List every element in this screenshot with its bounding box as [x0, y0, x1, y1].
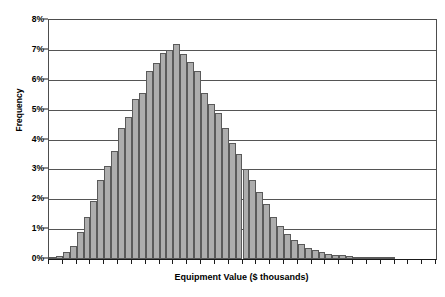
histogram-bar	[104, 166, 111, 259]
x-axis-tick	[269, 259, 270, 264]
histogram-bar	[84, 217, 91, 259]
histogram-bar	[312, 250, 319, 259]
y-axis-tick-label: 7%	[18, 45, 44, 54]
x-axis-tick	[228, 259, 229, 264]
x-axis-tick	[352, 259, 353, 264]
y-axis-tick-label: 4%	[18, 134, 44, 143]
histogram-bar	[277, 226, 284, 259]
x-axis-tick	[242, 259, 243, 264]
y-axis-tick-label: 1%	[18, 224, 44, 233]
x-axis-tick	[103, 259, 104, 264]
histogram-bar	[146, 71, 153, 259]
x-axis-tick	[89, 259, 90, 264]
histogram-bar	[236, 154, 243, 259]
histogram-bar	[298, 244, 305, 259]
y-axis-tick-labels: 0%1%2%3%4%5%6%7%8%	[14, 0, 44, 297]
histogram-bar	[256, 192, 263, 259]
histogram-bar	[125, 117, 132, 259]
x-axis-tick	[172, 259, 173, 264]
histogram-bar	[194, 71, 201, 259]
histogram-bar	[173, 44, 180, 259]
histogram-bar	[70, 246, 77, 259]
histogram-bar	[187, 62, 194, 259]
x-axis-tick	[214, 259, 215, 264]
y-axis-tick-label: 5%	[18, 104, 44, 113]
x-axis-tick	[145, 259, 146, 264]
y-axis-tick-label: 0%	[18, 254, 44, 263]
x-axis-tick	[324, 259, 325, 264]
histogram-bar	[166, 50, 173, 259]
histogram-bar	[243, 169, 250, 259]
histogram-bar	[180, 54, 187, 259]
histogram-bar	[111, 151, 118, 259]
x-axis-tick	[186, 259, 187, 264]
x-axis-tick	[76, 259, 77, 264]
histogram-bar	[229, 143, 236, 260]
histogram-bar	[97, 180, 104, 259]
histogram-bar	[215, 113, 222, 259]
x-axis-tick	[435, 259, 436, 264]
x-axis-tick	[48, 259, 49, 264]
histogram-bar	[208, 104, 215, 259]
histogram-bar	[139, 93, 146, 259]
x-axis-tick	[255, 259, 256, 264]
histogram-bar	[160, 53, 167, 259]
y-axis-tick-label: 2%	[18, 194, 44, 203]
x-axis-ticks	[48, 259, 437, 265]
histogram-bar	[77, 232, 84, 259]
histogram-bar	[222, 128, 229, 259]
x-axis-tick	[131, 259, 132, 264]
histogram-bar	[263, 204, 270, 259]
x-axis-tick	[200, 259, 201, 264]
histogram-bar	[291, 240, 298, 259]
y-axis-tick-label: 3%	[18, 164, 44, 173]
x-axis-tick	[62, 259, 63, 264]
histogram-bar	[249, 180, 256, 259]
histogram-bar	[270, 217, 277, 259]
histogram-bar	[201, 93, 208, 259]
x-axis-tick	[338, 259, 339, 264]
x-axis-tick	[283, 259, 284, 264]
x-axis-tick	[380, 259, 381, 264]
x-axis-tick	[394, 259, 395, 264]
histogram-bar	[118, 128, 125, 259]
histogram-bar	[305, 248, 312, 259]
y-axis-tick-label: 6%	[18, 75, 44, 84]
x-axis-tick	[117, 259, 118, 264]
x-axis-title: Equipment Value ($ thousands)	[48, 272, 435, 282]
histogram-bar	[132, 99, 139, 259]
histogram-bar	[90, 201, 97, 259]
plot-area	[48, 19, 437, 260]
x-axis-tick	[297, 259, 298, 264]
histogram-bar	[153, 63, 160, 259]
y-axis-tick-label: 8%	[18, 15, 44, 24]
histogram-bar	[284, 234, 291, 259]
x-axis-tick	[311, 259, 312, 264]
histogram-bars	[49, 20, 436, 259]
x-axis-tick	[159, 259, 160, 264]
x-axis-tick	[366, 259, 367, 264]
x-axis-tick	[407, 259, 408, 264]
histogram-chart: Frequency 0%1%2%3%4%5%6%7%8% Equipment V…	[0, 0, 445, 297]
x-axis-tick	[421, 259, 422, 264]
